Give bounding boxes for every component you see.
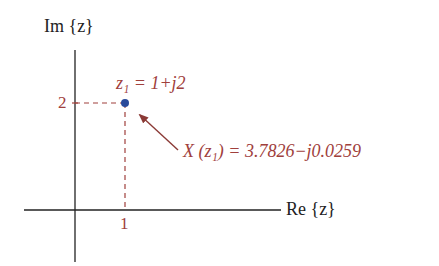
complex-plane-diagram	[0, 0, 439, 266]
x-axis-label: Re {z}	[286, 199, 336, 220]
annotation-label: X (z₁) = 3.7826−j0.0259	[183, 141, 361, 162]
point-label: z₁ = 1+j2	[116, 73, 186, 94]
x-tick-label: 1	[120, 214, 129, 234]
y-tick-label: 2	[58, 93, 67, 113]
point-z1	[121, 99, 129, 107]
annotation-arrow	[140, 115, 178, 150]
y-axis-label: Im {z}	[44, 16, 94, 37]
